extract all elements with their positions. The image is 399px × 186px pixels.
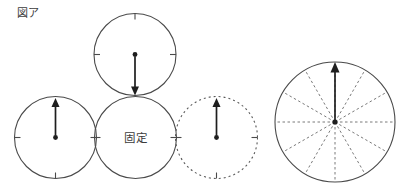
spoked-circle <box>275 62 395 182</box>
radial-dashed-line <box>305 70 335 122</box>
left-circle <box>15 97 97 179</box>
radial-dashed-line <box>335 92 387 122</box>
fixed-circle: 固定 <box>95 97 177 179</box>
arrow-up-head <box>331 62 340 73</box>
arrow-up-head <box>213 98 221 107</box>
center-dot <box>53 135 58 140</box>
radial-dashed-line <box>335 70 365 122</box>
radial-dashed-line <box>335 122 365 174</box>
radial-dashed-line <box>335 122 387 152</box>
diagram-svg: 図ア 固定 <box>0 0 399 186</box>
dotted-circle <box>176 97 258 179</box>
arrow-up-head <box>52 98 60 107</box>
arrow-down-head <box>131 87 139 96</box>
radial-dashed-line <box>283 92 335 122</box>
fixed-label: 固定 <box>124 131 148 145</box>
top-circle <box>94 14 176 96</box>
center-dot <box>214 135 219 140</box>
figure-label: 図ア <box>17 7 39 20</box>
radial-dashed-line <box>305 122 335 174</box>
figure-a-diagram: 図ア 固定 <box>0 0 399 186</box>
center-dot <box>133 52 138 57</box>
center-dot <box>332 119 337 124</box>
radial-dashed-line <box>283 122 335 152</box>
